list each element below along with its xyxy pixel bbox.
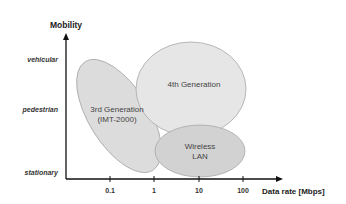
wlan-label-line2: LAN [192,152,208,161]
y-label-stationary: stationary [25,169,60,177]
x-tick-label-10: 10 [195,187,203,194]
y-axis-title: Mobility [50,20,82,30]
fourth-gen-region [136,42,246,136]
mobility-vs-datarate-diagram: 3rd Generation (IMT-2000) 4th Generation… [0,0,346,204]
y-axis-arrow-icon [63,33,69,40]
third-gen-label-line1: 3rd Generation [90,105,143,114]
x-tick-label-1: 1 [152,187,156,194]
wlan-label-line1: Wireless [185,142,216,151]
fourth-gen-label: 4th Generation [168,80,221,89]
x-axis-title: Data rate [Mbps] [262,187,325,196]
x-axis-arrow-icon [276,176,283,182]
x-tick-label-100: 100 [237,187,249,194]
y-label-pedestrian: pedestrian [22,106,58,114]
wlan-region [155,125,245,177]
third-gen-label-line2: (IMT-2000) [97,115,136,124]
y-label-vehicular: vehicular [27,56,59,63]
x-tick-label-0.1: 0.1 [105,187,115,194]
